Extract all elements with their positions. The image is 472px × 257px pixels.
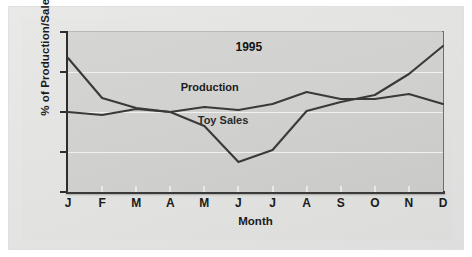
x-tick-mark-6 — [272, 186, 274, 192]
chart-title: 1995 — [236, 40, 263, 54]
x-tick-label-6: J — [263, 196, 283, 210]
x-tick-mark-4 — [203, 186, 205, 192]
x-tick-mark-9 — [374, 186, 376, 192]
x-tick-label-10: N — [399, 196, 419, 210]
x-tick-label-1: F — [92, 196, 112, 210]
series-line-toy-sales — [68, 46, 443, 162]
x-tick-label-3: A — [160, 196, 180, 210]
y-tick-mark-10 — [60, 71, 67, 73]
x-tick-label-4: M — [194, 196, 214, 210]
x-tick-mark-10 — [408, 186, 410, 192]
x-tick-mark-8 — [340, 186, 342, 192]
x-tick-label-7: A — [297, 196, 317, 210]
y-axis-title: % of Production/Sales — [39, 0, 51, 139]
x-tick-label-11: D — [433, 196, 453, 210]
y-tick-mark-8 — [60, 111, 67, 113]
plot-area — [68, 32, 443, 192]
x-axis-title: Month — [68, 215, 443, 227]
series-lines — [68, 32, 443, 192]
x-tick-mark-7 — [306, 186, 308, 192]
x-tick-label-2: M — [126, 196, 146, 210]
x-tick-label-9: O — [365, 196, 385, 210]
y-tick-mark-6 — [60, 151, 67, 153]
x-tick-label-5: J — [228, 196, 248, 210]
y-tick-mark-12 — [60, 31, 67, 33]
series-label-production: Production — [181, 81, 239, 93]
x-tick-mark-3 — [169, 186, 171, 192]
x-tick-label-8: S — [331, 196, 351, 210]
x-tick-mark-5 — [237, 186, 239, 192]
chart-figure: % of Production/Sales Month 1210864 JFMA… — [0, 0, 472, 257]
x-tick-mark-2 — [135, 186, 137, 192]
y-tick-mark-4 — [60, 191, 67, 193]
series-label-toy-sales: Toy Sales — [198, 114, 249, 126]
x-tick-mark-1 — [101, 186, 103, 192]
x-tick-label-0: J — [58, 196, 78, 210]
